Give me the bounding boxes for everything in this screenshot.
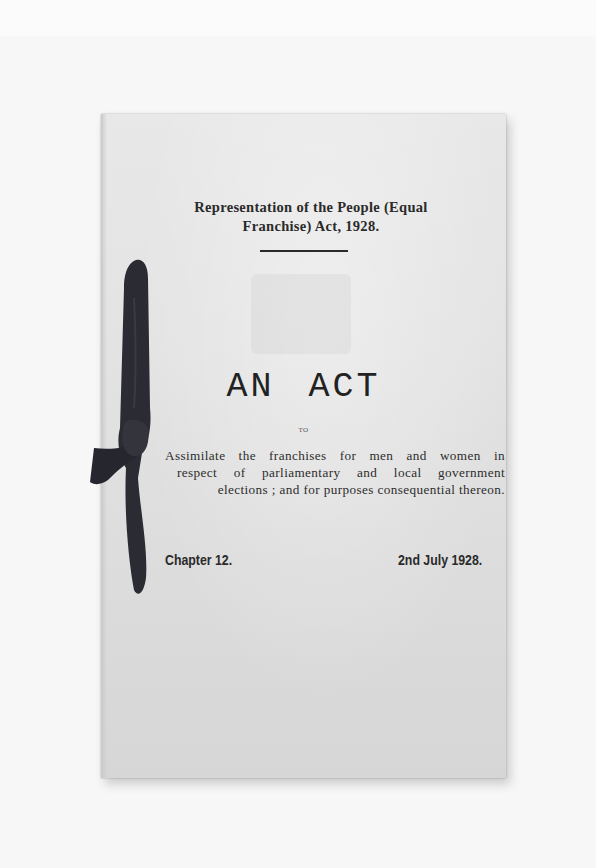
act-title-line-2: Franchise) Act, 1928. xyxy=(161,217,461,236)
description-line-2: respect of parliamentary and local gover… xyxy=(165,464,505,481)
act-description: Assimilate the franchises for men and wo… xyxy=(165,447,505,498)
act-title-line-1: Representation of the People (Equal xyxy=(161,198,461,217)
description-line-3: elections ; and for purposes consequenti… xyxy=(165,481,505,498)
title-divider xyxy=(260,250,348,252)
ribbon-tie-icon xyxy=(90,258,160,598)
act-document-cover: Representation of the People (Equal Fran… xyxy=(101,114,506,778)
to-label: TO xyxy=(101,426,506,434)
faint-watermark-seal xyxy=(251,274,351,354)
act-title: Representation of the People (Equal Fran… xyxy=(161,198,461,236)
act-heading: AN ACT xyxy=(101,367,506,407)
chapter-number: Chapter 12. xyxy=(165,552,232,568)
act-date: 2nd July 1928. xyxy=(398,552,482,568)
description-line-1: Assimilate the franchises for men and wo… xyxy=(165,447,505,464)
